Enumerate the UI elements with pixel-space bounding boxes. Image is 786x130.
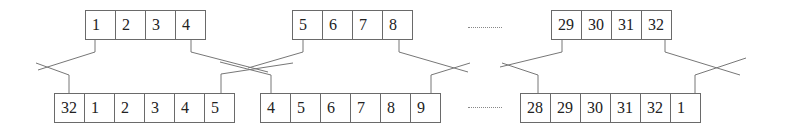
bit-cell: 28 <box>520 93 551 123</box>
bit-cell: 6 <box>320 93 351 123</box>
bit-cell: 4 <box>260 93 291 123</box>
bit-cell: 29 <box>550 93 581 123</box>
bit-cell: 31 <box>611 10 642 40</box>
ellipsis-top <box>468 27 502 28</box>
bit-cell: 1 <box>84 93 115 123</box>
bit-cell: 7 <box>350 93 381 123</box>
bit-cell: 6 <box>322 10 353 40</box>
bit-cell: 29 <box>551 10 582 40</box>
bit-cell: 4 <box>174 93 205 123</box>
bit-cell: 32 <box>640 93 671 123</box>
bit-cell: 5 <box>290 93 321 123</box>
expansion-permutation-diagram: 1 2 3 4 5 6 7 8 29 30 31 32 32 1 2 3 4 5… <box>0 0 786 130</box>
bit-cell: 2 <box>115 10 146 40</box>
bit-cell: 30 <box>580 93 611 123</box>
input-block-2: 5 6 7 8 <box>292 10 412 38</box>
bit-cell: 31 <box>610 93 641 123</box>
output-block-2: 4 5 6 7 8 9 <box>260 93 440 121</box>
bit-cell: 8 <box>380 93 411 123</box>
output-block-1: 32 1 2 3 4 5 <box>54 93 234 121</box>
ellipsis-bottom <box>468 107 502 108</box>
bit-cell: 5 <box>292 10 323 40</box>
input-block-1: 1 2 3 4 <box>85 10 205 38</box>
bit-cell: 3 <box>144 93 175 123</box>
bit-cell: 32 <box>641 10 672 40</box>
bit-cell: 5 <box>204 93 235 123</box>
bit-cell: 32 <box>54 93 85 123</box>
output-block-8: 28 29 30 31 32 1 <box>520 93 700 121</box>
input-block-8: 29 30 31 32 <box>551 10 671 38</box>
bit-cell: 1 <box>85 10 116 40</box>
bit-cell: 30 <box>581 10 612 40</box>
bit-cell: 1 <box>670 93 701 123</box>
bit-cell: 9 <box>410 93 441 123</box>
bit-cell: 4 <box>175 10 206 40</box>
bit-cell: 8 <box>382 10 413 40</box>
bit-cell: 7 <box>352 10 383 40</box>
bit-cell: 2 <box>114 93 145 123</box>
bit-cell: 3 <box>145 10 176 40</box>
